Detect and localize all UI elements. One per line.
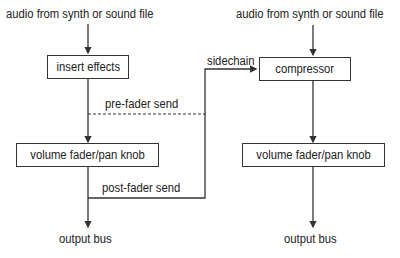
right-volume-fader-label: volume fader/pan knob (256, 148, 370, 162)
left-volume-fader-label: volume fader/pan knob (30, 148, 144, 162)
left-input-label: audio from synth or sound file (6, 7, 154, 21)
sidechain-label: sidechain (207, 54, 255, 68)
compressor-box: compressor (259, 57, 351, 81)
post-fader-sidechain-line (88, 69, 256, 198)
connector-lines (0, 0, 400, 258)
compressor-label: compressor (276, 62, 335, 76)
right-volume-fader-box: volume fader/pan knob (242, 143, 385, 167)
pre-fader-send-label: pre-fader send (105, 97, 178, 111)
insert-effects-box: insert effects (47, 55, 129, 79)
left-output-label: output bus (59, 232, 112, 246)
insert-effects-label: insert effects (56, 60, 120, 74)
post-fader-send-label: post-fader send (102, 181, 180, 195)
right-input-label: audio from synth or sound file (236, 7, 384, 21)
left-volume-fader-box: volume fader/pan knob (16, 143, 159, 167)
right-output-label: output bus (284, 232, 337, 246)
